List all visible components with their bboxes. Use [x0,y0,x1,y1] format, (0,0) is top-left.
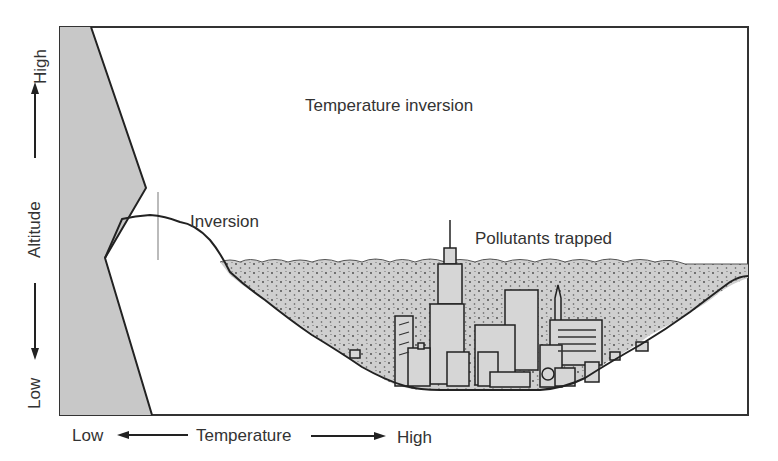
y-axis-low-label-group: Low [25,377,44,409]
y-axis-low-label: Low [25,377,44,409]
y-axis-label-group: Altitude [25,201,44,258]
x-axis-label: Temperature [196,426,291,445]
diagram-title: Temperature inversion [305,96,473,115]
x-axis-high-label: High [397,428,432,447]
arrow-right-icon [374,432,386,440]
y-axis-high-label-group: High [31,49,50,84]
y-axis-high-label: High [31,49,50,84]
y-axis-label: Altitude [25,201,44,258]
pollutants-label: Pollutants trapped [475,229,612,248]
inversion-label: Inversion [190,212,259,231]
arrow-down-icon [31,348,39,360]
x-axis-low-label: Low [72,426,104,445]
temperature-inversion-diagram: Temperature inversion Inversion Pollutan… [0,0,778,461]
